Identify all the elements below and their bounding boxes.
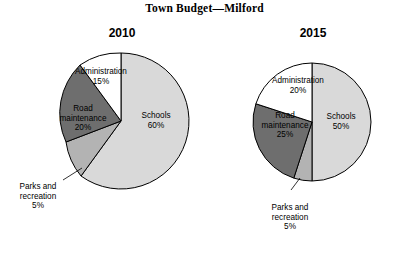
- slice-label-parks-2010-name-2: recreation: [2, 192, 74, 202]
- slice-label-admin-2010-pct: 15%: [57, 77, 145, 87]
- slice-label-road-2010-pct: 20%: [42, 123, 124, 133]
- slice-label-parks-2015: Parks and recreation 5%: [254, 203, 326, 232]
- slice-label-schools-2015-name: Schools: [326, 112, 355, 121]
- slice-label-road-2015-name-2: maintenance: [244, 121, 326, 131]
- pie-panel-2015: 2015 Schools 50% Road maintenance 25%: [205, 0, 409, 254]
- slice-label-road-2010-name-1: Road: [73, 104, 93, 113]
- slice-label-road-2015-name-1: Road: [275, 111, 295, 120]
- pie-panel-2010: 2010 Schools 60% Road maintenance 20%: [0, 0, 205, 254]
- slice-label-road-2015-pct: 25%: [244, 130, 326, 140]
- slice-label-road-maintenance-2010: Road maintenance 20%: [42, 104, 124, 133]
- slice-label-parks-2015-name-1: Parks and: [272, 203, 309, 212]
- slice-label-administration-2015: Administration 20%: [254, 76, 342, 95]
- slice-label-schools-2010: Schools 60%: [126, 111, 186, 130]
- slice-label-parks-2015-name-2: recreation: [254, 213, 326, 223]
- slice-label-road-maintenance-2015: Road maintenance 25%: [244, 111, 326, 140]
- slice-label-admin-2015-pct: 20%: [254, 86, 342, 96]
- slice-label-parks-2015-pct: 5%: [254, 222, 326, 232]
- pie-chart-figure: Town Budget—Milford 2010 Schools 60% Roa…: [0, 0, 409, 254]
- slice-label-schools-2010-pct: 60%: [126, 121, 186, 131]
- slice-label-road-2010-name-2: maintenance: [42, 114, 124, 124]
- parks-leader-line-2015: [291, 178, 300, 190]
- slice-label-parks-2010-name-1: Parks and: [20, 182, 57, 191]
- slice-label-admin-2010-name: Administration: [75, 67, 127, 76]
- slice-label-schools-2010-name: Schools: [141, 111, 170, 120]
- slice-label-parks-2010-pct: 5%: [2, 201, 74, 211]
- slice-label-parks-2010: Parks and recreation 5%: [2, 182, 74, 211]
- slice-label-administration-2010: Administration 15%: [57, 67, 145, 86]
- slice-label-admin-2015-name: Administration: [272, 76, 324, 85]
